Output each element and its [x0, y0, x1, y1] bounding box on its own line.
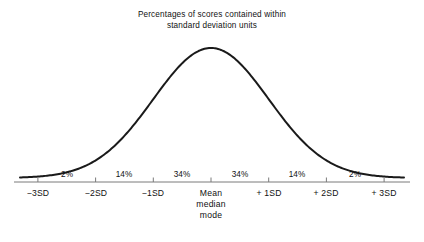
plot-area: 2% 14% 34% 34% 14% 2% −3SD −2SD −1SD Mea…: [0, 0, 424, 242]
percent-label-neg2-neg1: 14%: [116, 170, 133, 179]
percent-label-neg1-mean: 34%: [174, 170, 191, 179]
axis-label-minus-1sd: −1SD: [142, 188, 165, 199]
percent-label-neg3-neg2: 2%: [61, 170, 73, 179]
center-label-mode: mode: [196, 210, 225, 221]
center-label-median: median: [196, 199, 225, 210]
normal-distribution-figure: Percentages of scores contained within s…: [0, 0, 424, 242]
axis-label-plus-3sd: + 3SD: [371, 188, 396, 199]
axis-label-minus-3sd: −3SD: [27, 188, 50, 199]
axis-label-plus-1sd: + 1SD: [256, 188, 281, 199]
axis-label-plus-2sd: + 2SD: [313, 188, 338, 199]
axis-label-center: Mean median mode: [196, 188, 225, 221]
percent-label-pos1-pos2: 14%: [289, 170, 306, 179]
center-label-mean: Mean: [196, 188, 225, 199]
bell-curve-path: [20, 48, 404, 178]
percent-label-mean-pos1: 34%: [232, 170, 249, 179]
axis-label-minus-2sd: −2SD: [85, 188, 108, 199]
axis-tick-marks: [38, 178, 384, 183]
percent-label-pos2-pos3: 2%: [349, 170, 361, 179]
